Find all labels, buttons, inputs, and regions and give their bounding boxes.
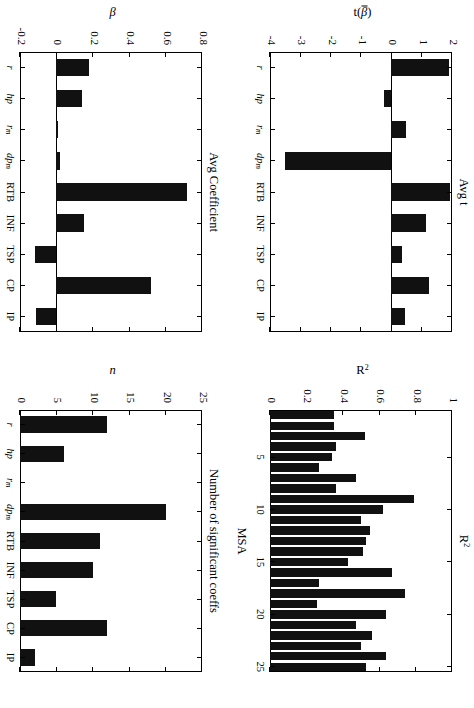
bar — [20, 562, 93, 578]
x-tick — [20, 424, 25, 425]
bar — [20, 416, 107, 432]
x-tick — [20, 482, 25, 483]
figure-canvas: Avg tt(β)210-1-2-3-4rhprmdpmRTBINFTSPCPI… — [0, 0, 474, 708]
y-tick — [92, 667, 93, 672]
y-tick — [129, 410, 130, 415]
x-tick — [197, 657, 202, 658]
x-tick — [197, 628, 202, 629]
x-tick — [197, 424, 202, 425]
bar — [20, 533, 100, 549]
x-tick — [197, 599, 202, 600]
x-tick — [197, 511, 202, 512]
y-tick-label: 10 — [89, 363, 101, 403]
y-tick — [202, 410, 203, 415]
y-tick-label: 25 — [198, 363, 210, 403]
bar — [20, 591, 56, 607]
y-tick — [20, 410, 21, 415]
x-tick — [197, 570, 202, 571]
y-tick — [129, 667, 130, 672]
x-tick — [20, 599, 25, 600]
y-tick — [165, 410, 166, 415]
x-tick — [197, 541, 202, 542]
x-tick — [20, 628, 25, 629]
x-tick — [20, 541, 25, 542]
y-tick-label: 0 — [16, 363, 28, 403]
y-tick-label: 5 — [52, 363, 64, 403]
x-tick — [197, 453, 202, 454]
x-tick — [197, 482, 202, 483]
panel-significant-coeffs: Number of significant coeffsn2520151050r… — [0, 0, 474, 708]
y-tick-label: 20 — [162, 363, 174, 403]
y-tick — [165, 667, 166, 672]
y-tick — [56, 667, 57, 672]
y-tick — [56, 410, 57, 415]
x-tick — [20, 570, 25, 571]
bar — [20, 504, 166, 520]
y-tick — [20, 667, 21, 672]
x-tick — [20, 453, 25, 454]
y-tick-label: 15 — [125, 363, 137, 403]
x-tick — [20, 511, 25, 512]
x-tick-label: IP — [5, 633, 16, 681]
panel-title-significant-coeffs: Number of significant coeffs — [206, 410, 221, 672]
bar — [20, 620, 107, 636]
y-tick — [92, 410, 93, 415]
y-tick — [202, 667, 203, 672]
x-tick — [20, 657, 25, 658]
bar — [20, 446, 64, 462]
